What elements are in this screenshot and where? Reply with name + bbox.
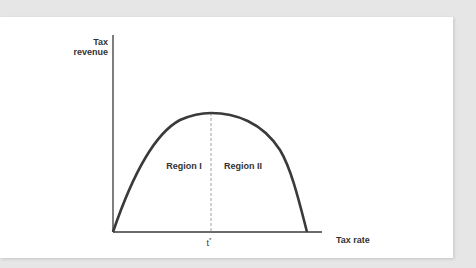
y-axis-label-line2: revenue [73, 47, 108, 57]
laffer-curve [113, 113, 307, 232]
region-2-label: Region II [224, 161, 262, 171]
y-axis-label-line1: Tax [93, 37, 108, 47]
x-tick-t-star: t* [207, 237, 213, 248]
laffer-curve-chart: Tax revenue Region I Region II t* Tax ra… [0, 0, 476, 268]
x-axis-label: Tax rate [336, 235, 370, 245]
region-1-label: Region I [166, 161, 202, 171]
